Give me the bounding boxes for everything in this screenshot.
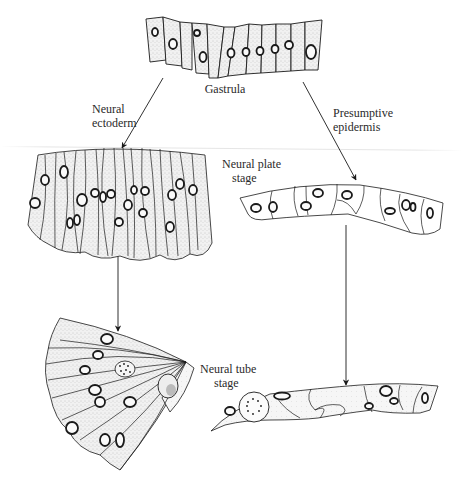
gastrula-label: Gastrula [205,82,246,96]
neural-ectoderm-label: Neural ectoderm [92,102,137,130]
neural-plate-label-line1: Neural plate [222,157,281,171]
presumptive-epidermis-label-line2: epidermis [333,120,393,134]
neural-ectoderm-label-line2: ectoderm [92,116,137,130]
neural-tube-label-line1: Neural tube [200,362,256,376]
presumptive-epidermis-label-line1: Presumptive [333,106,393,120]
neural-tube-label-line2: stage [214,376,239,390]
neural-plate-label-line2: stage [232,171,257,185]
ectoderm-differentiation-diagram: Gastrula [0,0,462,491]
neural-ectoderm-label-line1: Neural [92,102,137,116]
presumptive-epidermis-label: Presumptive epidermis [333,106,393,134]
epidermis-tube-mitotic-cell [239,392,269,422]
